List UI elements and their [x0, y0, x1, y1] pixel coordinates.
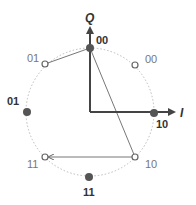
q-axis-label: Q [85, 11, 95, 25]
filled-point-00 [86, 44, 94, 52]
label-filled-10: 10 [156, 118, 168, 130]
transition-line-00-to-10 [90, 48, 135, 157]
constellation-diagram: Q I 00 01 10 11 00 01 10 11 [0, 0, 196, 205]
filled-point-11 [85, 173, 93, 181]
open-point-01 [42, 61, 48, 67]
open-point-00 [132, 62, 138, 68]
open-point-10 [132, 154, 138, 160]
label-filled-11: 11 [83, 186, 95, 198]
label-open-00: 00 [145, 53, 157, 65]
label-open-11: 11 [27, 158, 38, 170]
i-axis-label: I [180, 106, 184, 120]
label-filled-00: 00 [96, 34, 108, 46]
open-point-11 [42, 154, 48, 160]
filled-point-10 [150, 109, 158, 117]
filled-point-01 [23, 108, 31, 116]
label-open-10: 10 [145, 158, 157, 170]
label-open-01: 01 [27, 52, 39, 64]
transition-line-01-to-00 [45, 48, 90, 64]
label-filled-01: 01 [7, 95, 19, 107]
